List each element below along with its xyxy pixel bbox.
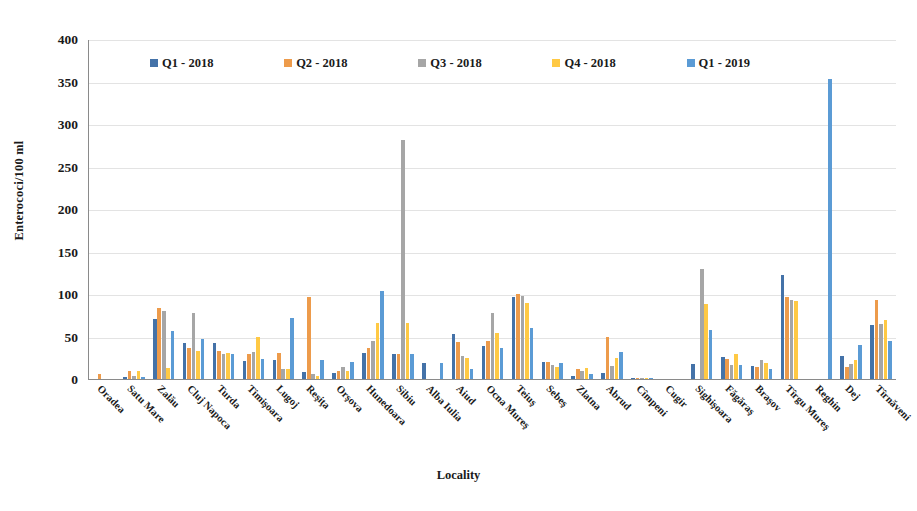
bar[interactable] [440,363,444,379]
bar[interactable] [576,369,580,379]
bar[interactable] [721,357,725,379]
bar[interactable] [141,377,145,379]
bar[interactable] [888,341,892,379]
bar[interactable] [649,378,653,379]
bar[interactable] [307,297,311,379]
bar[interactable] [380,291,384,379]
legend-item-q4-2018[interactable]: Q4 - 2018 [552,56,615,71]
bar[interactable] [571,376,575,379]
bar[interactable] [171,331,175,379]
bar[interactable] [316,376,320,379]
bar[interactable] [495,333,499,379]
bar[interactable] [452,334,456,379]
bar[interactable] [392,354,396,380]
bar[interactable] [166,368,170,379]
bar[interactable] [491,313,495,379]
bar[interactable] [551,365,555,379]
bar[interactable] [367,348,371,379]
bar[interactable] [870,325,874,379]
bar[interactable] [337,371,341,380]
bar[interactable] [192,313,196,379]
bar[interactable] [640,378,644,379]
bar[interactable] [601,373,605,379]
bar[interactable] [790,300,794,379]
bar[interactable] [785,297,789,379]
bar[interactable] [376,323,380,379]
bar[interactable] [615,358,619,379]
bar[interactable] [123,377,127,379]
bar[interactable] [201,339,205,379]
bar[interactable] [231,354,235,380]
bar[interactable] [226,353,230,379]
bar[interactable] [645,378,649,379]
bar[interactable] [542,362,546,379]
bar[interactable] [470,369,474,379]
bar[interactable] [610,366,614,379]
bar[interactable] [781,275,785,379]
bar[interactable] [371,341,375,379]
bar[interactable] [704,304,708,379]
bar[interactable] [311,374,315,379]
bar[interactable] [482,346,486,379]
bar[interactable] [217,351,221,379]
bar[interactable] [98,374,102,379]
bar[interactable] [828,79,832,379]
bar[interactable] [302,372,306,379]
bar[interactable] [709,330,713,379]
bar[interactable] [290,318,294,379]
bar[interactable] [461,356,465,379]
bar[interactable] [196,351,200,379]
bar[interactable] [769,369,773,379]
bar[interactable] [546,362,550,379]
bar[interactable] [858,345,862,379]
bar[interactable] [580,371,584,380]
bar[interactable] [516,294,520,379]
bar[interactable] [691,364,695,379]
bar[interactable] [589,374,593,379]
bar[interactable] [346,371,350,380]
bar[interactable] [261,359,265,379]
bar[interactable] [332,373,336,379]
bar[interactable] [606,337,610,380]
bar[interactable] [222,354,226,380]
bar[interactable] [183,343,187,379]
bar[interactable] [486,341,490,379]
bar[interactable] [879,324,883,379]
bar[interactable] [884,320,888,380]
bar[interactable] [243,361,247,379]
bar[interactable] [362,353,366,379]
bar[interactable] [128,371,132,379]
bar[interactable] [406,323,410,379]
bar[interactable] [252,352,256,379]
legend-item-q3-2018[interactable]: Q3 - 2018 [418,56,481,71]
bar[interactable] [845,367,849,379]
bar[interactable] [277,353,281,379]
bar[interactable] [764,363,768,379]
bar[interactable] [755,367,759,379]
bar[interactable] [281,369,285,379]
bar[interactable] [256,337,260,380]
legend-item-q1-2018[interactable]: Q1 - 2018 [150,56,213,71]
bar[interactable] [286,369,290,379]
bar[interactable] [875,300,879,379]
bar[interactable] [700,269,704,380]
bar[interactable] [187,348,191,379]
bar[interactable] [162,311,166,379]
bar[interactable] [619,352,623,379]
bar[interactable] [153,319,157,379]
bar[interactable] [401,140,405,379]
bar[interactable] [734,354,738,379]
bar[interactable] [247,354,251,379]
bar[interactable] [555,367,559,379]
bar[interactable] [730,365,734,379]
bar[interactable] [213,343,217,379]
bar[interactable] [512,297,516,379]
bar[interactable] [465,358,469,379]
bar[interactable] [320,360,324,379]
bar[interactable] [760,360,764,379]
bar[interactable] [631,378,635,379]
bar[interactable] [559,363,563,379]
bar[interactable] [525,303,529,380]
bar[interactable] [422,363,426,379]
bar[interactable] [854,360,858,379]
